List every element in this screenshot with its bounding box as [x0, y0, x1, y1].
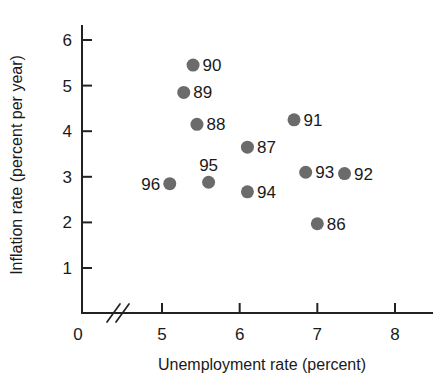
- plot-canvas: 12345656780 8687888990919293949596 Unemp…: [0, 0, 439, 388]
- y-tick-label-4: 4: [63, 122, 72, 141]
- data-point-label: 92: [354, 165, 373, 184]
- y-tick-label-1: 1: [63, 259, 72, 278]
- x-tick-label-8: 8: [390, 325, 399, 344]
- y-tick-label-2: 2: [63, 213, 72, 232]
- axes-group: [82, 26, 432, 322]
- x-tick-label-7: 7: [313, 325, 322, 344]
- scatter-chart: 12345656780 8687888990919293949596 Unemp…: [0, 0, 439, 388]
- y-tick-label-5: 5: [63, 77, 72, 96]
- data-point-marker[interactable]: [338, 167, 351, 180]
- data-point-87[interactable]: 87: [241, 138, 276, 157]
- data-point-label: 96: [141, 175, 160, 194]
- data-point-label: 90: [203, 56, 222, 75]
- data-point-label: 87: [257, 138, 276, 157]
- data-point-95[interactable]: 95: [199, 156, 218, 189]
- data-point-marker[interactable]: [163, 177, 176, 190]
- data-point-93[interactable]: 93: [299, 163, 334, 182]
- data-point-88[interactable]: 88: [190, 115, 225, 134]
- data-point-92[interactable]: 92: [338, 165, 373, 184]
- data-point-marker[interactable]: [299, 166, 312, 179]
- data-point-94[interactable]: 94: [241, 183, 276, 202]
- data-point-91[interactable]: 91: [288, 111, 323, 130]
- x-tick-label-6: 6: [235, 325, 244, 344]
- data-point-89[interactable]: 89: [177, 83, 212, 102]
- x-axis-title: Unemployment rate (percent): [158, 356, 366, 373]
- y-axis-title: Inflation rate (percent per year): [8, 55, 25, 275]
- data-point-label: 88: [206, 115, 225, 134]
- data-point-marker[interactable]: [202, 176, 215, 189]
- data-point-marker[interactable]: [190, 118, 203, 131]
- tick-labels-group: 12345656780: [63, 31, 400, 344]
- data-point-marker[interactable]: [187, 59, 200, 72]
- data-point-label: 95: [199, 156, 218, 175]
- data-point-86[interactable]: 86: [311, 215, 346, 234]
- data-point-marker[interactable]: [288, 113, 301, 126]
- data-point-label: 91: [304, 111, 323, 130]
- x-tick-label-5: 5: [157, 325, 166, 344]
- y-tick-label-6: 6: [63, 31, 72, 50]
- y-tick-label-3: 3: [63, 168, 72, 187]
- data-point-label: 89: [193, 83, 212, 102]
- data-point-label: 93: [315, 163, 334, 182]
- data-point-label: 86: [327, 215, 346, 234]
- data-point-90[interactable]: 90: [187, 56, 222, 75]
- data-point-96[interactable]: 96: [141, 175, 176, 194]
- data-point-marker[interactable]: [241, 141, 254, 154]
- x-axis-origin-label: 0: [73, 325, 82, 344]
- data-point-marker[interactable]: [241, 185, 254, 198]
- data-point-marker[interactable]: [311, 217, 324, 230]
- data-point-marker[interactable]: [177, 86, 190, 99]
- data-points-group: 8687888990919293949596: [141, 56, 373, 234]
- data-point-label: 94: [257, 183, 276, 202]
